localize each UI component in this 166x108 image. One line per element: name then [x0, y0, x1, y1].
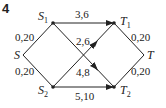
- edge-label-s-s2: 0,20: [15, 65, 35, 77]
- node-t-label: T: [147, 48, 155, 62]
- node-s1-dot: [51, 21, 55, 25]
- node-t1-label: T1: [120, 14, 131, 30]
- edge-label-s2-t2: 5,10: [75, 90, 95, 102]
- node-s2-dot: [51, 85, 55, 89]
- node-s1-label: S1: [38, 9, 48, 25]
- edge-label-s1-t1: 3,6: [75, 8, 89, 20]
- edge-label-s-s1: 0,20: [15, 31, 35, 43]
- arrowhead-s2-t1-icon: [92, 40, 98, 47]
- node-t1-dot: [112, 21, 116, 25]
- node-t2-dot: [112, 85, 116, 89]
- node-s-label: S: [14, 48, 20, 62]
- edge-label-t1-t: 0,20: [131, 31, 151, 43]
- node-t2-label: T2: [120, 83, 131, 99]
- node-s2-label: S2: [38, 83, 48, 99]
- edge-label-s1-t2: 4,8: [76, 66, 90, 78]
- network-flow-diagram: 4 S S1 S2 T1 T2 T 0,20 0,20 3,6 2,6 4,8 …: [0, 0, 166, 108]
- edge-label-t2-t: 0,20: [131, 65, 151, 77]
- problem-number: 4: [2, 1, 10, 16]
- edge-label-s2-t1: 2,6: [76, 35, 90, 47]
